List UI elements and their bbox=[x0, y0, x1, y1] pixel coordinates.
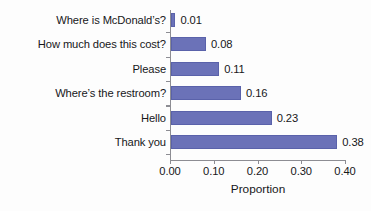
category-label: Hello bbox=[141, 110, 166, 126]
category-label: Thank you bbox=[115, 134, 166, 150]
bar-row: Please0.11 bbox=[0, 61, 371, 77]
plot-area: Where is McDonald’s?0.01How much does th… bbox=[0, 0, 371, 211]
x-axis-tick-label: 0.20 bbox=[238, 165, 278, 177]
x-axis-tick bbox=[301, 160, 302, 164]
category-label: How much does this cost? bbox=[38, 36, 166, 52]
bar-value-label: 0.01 bbox=[180, 12, 201, 28]
category-tick bbox=[166, 154, 170, 155]
x-axis-tick-label: 0.30 bbox=[281, 165, 321, 177]
x-axis-tick-label: 0.40 bbox=[325, 165, 365, 177]
x-axis-title: Proportion bbox=[170, 182, 346, 196]
bar-value-label: 0.23 bbox=[277, 110, 298, 126]
bar bbox=[171, 135, 337, 149]
category-tick bbox=[166, 57, 170, 58]
x-axis-tick-label: 0.00 bbox=[150, 165, 190, 177]
x-axis-tick bbox=[345, 160, 346, 164]
bar-row: Thank you0.38 bbox=[0, 134, 371, 150]
bar-row: Where’s the restroom?0.16 bbox=[0, 85, 371, 101]
category-tick bbox=[166, 32, 170, 33]
bar-row: Hello0.23 bbox=[0, 110, 371, 126]
category-label: Where’s the restroom? bbox=[55, 85, 166, 101]
bar-row: How much does this cost?0.08 bbox=[0, 36, 371, 52]
category-label: Where is McDonald’s? bbox=[56, 12, 166, 28]
bar-value-label: 0.08 bbox=[211, 36, 232, 52]
bar-chart: Where is McDonald’s?0.01How much does th… bbox=[0, 0, 371, 211]
category-tick bbox=[166, 130, 170, 131]
bar bbox=[171, 86, 241, 100]
bar bbox=[171, 37, 206, 51]
bar bbox=[171, 13, 175, 27]
bar-value-label: 0.16 bbox=[246, 85, 267, 101]
bar bbox=[171, 62, 219, 76]
category-label: Please bbox=[132, 61, 166, 77]
bar-value-label: 0.11 bbox=[224, 61, 245, 77]
x-axis-tick bbox=[170, 160, 171, 164]
x-axis-tick-label: 0.10 bbox=[194, 165, 234, 177]
x-axis-tick bbox=[258, 160, 259, 164]
category-tick bbox=[166, 105, 170, 106]
x-axis-tick bbox=[214, 160, 215, 164]
category-tick bbox=[166, 81, 170, 82]
bar-value-label: 0.38 bbox=[342, 134, 363, 150]
bar bbox=[171, 111, 272, 125]
bar-row: Where is McDonald’s?0.01 bbox=[0, 12, 371, 28]
